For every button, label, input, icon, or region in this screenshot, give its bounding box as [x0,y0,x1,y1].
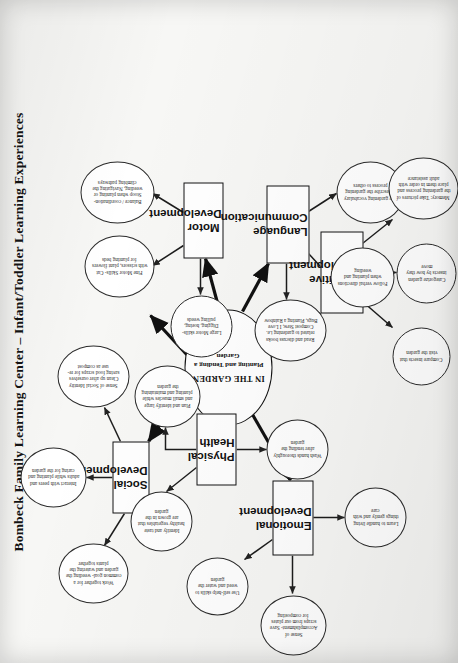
leaf-node-lan2[interactable]: Follow verbal directions when planting a… [330,247,394,307]
leaf-text-soc3: Sense of Social Identity Clean up after … [64,364,122,389]
leaf-node-soc2[interactable]: Interact with peers and adults while pla… [20,447,86,507]
leaf-node-phy1[interactable]: Identify and taste healthy vegetables th… [130,491,192,551]
leaf-node-emo3[interactable]: Learn to handle living things gently and… [344,487,406,547]
category-label-emotional: Emotional Development [274,504,311,530]
category-box-physical[interactable]: Physical Health [196,413,236,485]
leaf-node-cog1[interactable]: Compare insects that visit the garden [392,327,450,385]
leaf-text-lan1: Read and discuss books related to garden… [261,318,319,343]
document-page: Bombeck Family Learning Center – Infant/… [0,0,458,663]
leaf-text-cog3: Memory: Take pictures of the gardening p… [395,176,451,201]
leaf-node-soc1[interactable]: Work together for a common goal- weeding… [58,543,128,603]
central-topic-line1: IN THE GARDEN [192,373,264,383]
leaf-text-mot1: Fine Motor Skills- Cut with scissors, pl… [91,257,147,276]
leaf-text-cog2: Categorize garden insects by how they mo… [403,264,449,283]
leaf-text-emo2: Sense of Accomplishment- Save scraps fro… [267,613,319,638]
leaf-node-cog2[interactable]: Categorize garden insects by how they mo… [396,243,456,303]
category-box-emotional[interactable]: Emotional Development [272,480,313,555]
category-label-language: Language Communication [268,211,307,237]
leaf-node-phy2[interactable]: Plan and identify large and small muscle… [134,365,200,427]
category-label-social: Social Development [114,464,147,490]
category-label-motor: Motor Development [185,207,221,233]
concept-map-canvas: Bombeck Family Learning Center – Infant/… [0,0,458,663]
leaf-text-lan2: Follow verbal directions when planting a… [337,268,387,287]
leaf-node-phy3[interactable]: Wash hands thoroughly after tending the … [266,419,328,479]
leaf-node-soc3[interactable]: Sense of Social Identity Clean up after … [57,345,129,407]
leaf-node-emo2[interactable]: Sense of Accomplishment- Save scraps fro… [260,595,326,655]
category-label-physical: Physical Health [198,436,234,462]
rotated-scan-wrapper: Bombeck Family Learning Center – Infant/… [0,0,458,663]
category-box-motor[interactable]: Motor Development [183,182,223,258]
leaf-text-phy1: Identify and taste healthy vegetables th… [137,509,185,534]
leaf-text-cog1: Compare insects that visit the garden [398,350,444,362]
leaf-text-mot3: Large Motor skills- Digging, hoeing, pul… [177,317,225,336]
category-box-language[interactable]: Language Communication [266,185,309,263]
leaf-text-mot2: Balance / coordination- Stoop when plant… [87,180,147,205]
leaf-node-mot2[interactable]: Balance / coordination- Stoop when plant… [80,161,154,223]
leaf-node-cog3[interactable]: Memory: Take pictures of the gardening p… [388,157,458,219]
leaf-text-soc1: Work together for a common goal- weeding… [65,561,121,586]
leaf-text-emo1: Use self-help skills to weed and water t… [193,577,241,596]
leaf-text-soc2: Interact with peers and adults while pla… [27,468,79,487]
leaf-node-lan1[interactable]: Read and discuss books related to garden… [254,299,326,361]
leaf-node-emo1[interactable]: Use self-help skills to weed and water t… [186,557,248,615]
leaf-node-mot3[interactable]: Large Motor skills- Digging, hoeing, pul… [170,295,232,357]
leaf-text-phy2: Plan and identify large and small muscle… [141,384,193,409]
leaf-text-phy3: Wash hands thoroughly after tending the … [273,440,321,459]
leaf-node-mot1[interactable]: Fine Motor Skills- Cut with scissors, pl… [84,235,154,297]
leaf-text-emo3: Learn to handle living things gently and… [351,508,399,527]
